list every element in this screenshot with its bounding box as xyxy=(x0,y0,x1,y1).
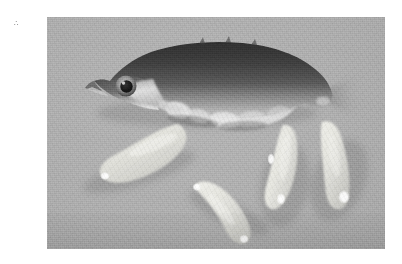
photograph xyxy=(47,17,385,249)
specimen-1-glint xyxy=(100,172,110,180)
specimen-2 xyxy=(193,182,251,245)
corner-scan-mark: ∴ xyxy=(14,18,22,28)
figure-page: ∴ xyxy=(0,0,402,264)
specimen-4-glint xyxy=(338,190,350,204)
specimen-2-glint-bottom xyxy=(239,235,249,244)
specimen-3-glint-upper xyxy=(267,153,274,165)
fish-eye-glint xyxy=(122,81,125,84)
specimen-3-glint-lower xyxy=(276,193,285,205)
specimen-1 xyxy=(100,124,187,183)
fish-caudal-fin xyxy=(329,77,377,117)
fish-peduncle-highlight xyxy=(316,97,330,106)
photograph-content xyxy=(47,17,385,249)
specimen-2-glint-top xyxy=(193,183,202,191)
fish-eye xyxy=(116,76,137,97)
